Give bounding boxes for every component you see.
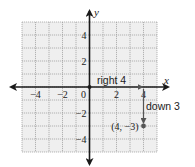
y-tick-label: 2 bbox=[82, 56, 87, 67]
y-tick-label: −4 bbox=[76, 134, 87, 145]
down-3-label: down 3 bbox=[146, 100, 180, 112]
x-tick-label: −4 bbox=[30, 89, 41, 100]
point-4-neg3 bbox=[141, 124, 146, 129]
y-axis-label: y bbox=[93, 6, 99, 18]
x-tick-label: 2 bbox=[114, 89, 119, 100]
y-tick-label: −2 bbox=[76, 108, 87, 119]
coordinate-plane-figure: −4−202442−2−4 x y right 4 down 3 (4, −3) bbox=[0, 0, 195, 167]
x-tick-label: −2 bbox=[57, 89, 68, 100]
x-tick-label: 0 bbox=[81, 89, 86, 100]
y-tick-label: 4 bbox=[82, 30, 87, 41]
point-label: (4, −3) bbox=[111, 121, 138, 133]
origin-dot bbox=[88, 85, 92, 89]
x-axis-label: x bbox=[163, 74, 169, 86]
right-4-label: right 4 bbox=[97, 74, 126, 86]
coordinate-plane: −4−202442−2−4 x y right 4 down 3 (4, −3) bbox=[0, 0, 195, 167]
